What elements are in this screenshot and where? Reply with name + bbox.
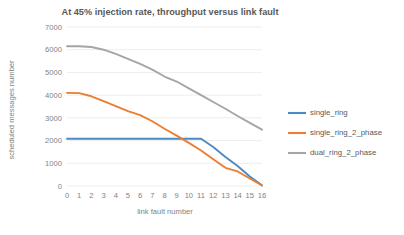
x-tick-label: 12 <box>209 191 217 200</box>
x-tick-label: 5 <box>126 191 130 200</box>
y-tick-label: 2000 <box>45 136 62 145</box>
y-tick-label: 4000 <box>45 91 62 100</box>
x-tick-label: 3 <box>101 191 105 200</box>
x-axis-title: link fault number <box>137 207 193 216</box>
y-tick-label: 6000 <box>45 45 62 54</box>
x-tick-label: 8 <box>162 191 166 200</box>
x-tick-label: 4 <box>114 191 118 200</box>
x-tick-label: 16 <box>258 191 266 200</box>
chart-title: At 45% injection rate, throughput versus… <box>62 7 279 17</box>
y-axis-title: scheduled messages number <box>7 60 16 160</box>
x-tick-label: 0 <box>65 191 69 200</box>
line-chart: At 45% injection rate, throughput versus… <box>0 0 404 235</box>
legend-label-single_ring: single_ring <box>310 108 348 117</box>
x-tick-label: 1 <box>77 191 81 200</box>
chart-container: At 45% injection rate, throughput versus… <box>0 0 404 235</box>
legend-label-dual_ring_2_phase: dual_ring_2_phase <box>310 148 376 157</box>
x-tick-label: 9 <box>175 191 179 200</box>
x-tick-label: 6 <box>138 191 142 200</box>
x-tick-label: 7 <box>150 191 154 200</box>
y-tick-label: 5000 <box>45 68 62 77</box>
x-tick-label: 15 <box>246 191 254 200</box>
x-tick-label: 2 <box>89 191 93 200</box>
y-tick-label: 3000 <box>45 114 62 123</box>
x-tick-label: 11 <box>197 191 205 200</box>
y-tick-label: 0 <box>58 182 62 191</box>
y-tick-label: 1000 <box>45 159 62 168</box>
x-tick-label: 10 <box>185 191 193 200</box>
x-tick-label: 14 <box>233 191 241 200</box>
legend-label-single_ring_2_phase: single_ring_2_phase <box>310 128 382 137</box>
x-tick-label: 13 <box>221 191 229 200</box>
y-tick-label: 7000 <box>45 23 62 32</box>
